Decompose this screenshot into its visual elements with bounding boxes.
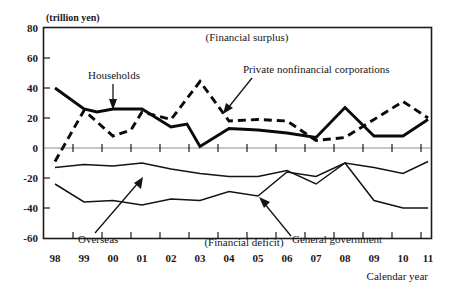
private-corp-label: Private nonfinancial corporations (243, 63, 390, 75)
x-tick-08: 08 (340, 252, 352, 264)
overseas-label: Overseas (78, 233, 118, 245)
x-tick-05: 05 (253, 252, 265, 264)
y-tick-m20: -20 (23, 172, 38, 184)
y-tick-60: 60 (27, 52, 39, 64)
x-tick-98: 98 (50, 252, 62, 264)
y-tick-m40: -40 (23, 202, 38, 214)
plot-frame (44, 28, 432, 239)
y-tick-80: 80 (27, 22, 39, 34)
unit-label: (trillion yen) (46, 12, 100, 24)
x-tick-04: 04 (224, 252, 236, 264)
x-tick-10: 10 (398, 252, 410, 264)
chart-canvas: (trillion yen) 80 60 40 20 0 -20 -40 -60 (0, 0, 455, 296)
households-leader-arrow (109, 84, 117, 110)
x-axis-labels: 98 99 00 01 02 03 04 05 06 07 08 09 10 1… (50, 252, 434, 264)
x-tick-01: 01 (137, 252, 148, 264)
y-tick-m60: -60 (23, 232, 38, 244)
x-tick-00: 00 (108, 252, 120, 264)
y-axis-labels: 80 60 40 20 0 -20 -40 -60 (23, 22, 38, 244)
series-overseas (55, 162, 428, 185)
financial-surplus-label: (Financial surplus) (206, 31, 289, 44)
households-label: Households (88, 69, 140, 81)
y-tick-20: 20 (27, 112, 39, 124)
series-general-government (55, 163, 428, 208)
x-tick-07: 07 (311, 252, 323, 264)
x-tick-02: 02 (166, 252, 178, 264)
y-axis-ticks (44, 58, 50, 208)
x-axis-title: Calendar year (367, 270, 429, 282)
x-tick-11: 11 (423, 252, 433, 264)
general-government-label: General government (292, 233, 382, 245)
x-tick-06: 06 (282, 252, 294, 264)
financial-balance-chart: (trillion yen) 80 60 40 20 0 -20 -40 -60 (0, 0, 455, 296)
overseas-leader-arrow (95, 177, 143, 233)
y-tick-0: 0 (33, 142, 39, 154)
general-government-leader-arrow (259, 197, 291, 236)
series-private-nonfinancial-corporations (55, 82, 428, 162)
y-tick-40: 40 (27, 82, 39, 94)
series-households (55, 88, 428, 147)
private-corp-leader-arrow (223, 78, 252, 114)
financial-deficit-label: (Financial deficit) (204, 236, 283, 249)
x-tick-03: 03 (195, 252, 207, 264)
x-tick-99: 99 (79, 252, 91, 264)
x-tick-09: 09 (369, 252, 381, 264)
